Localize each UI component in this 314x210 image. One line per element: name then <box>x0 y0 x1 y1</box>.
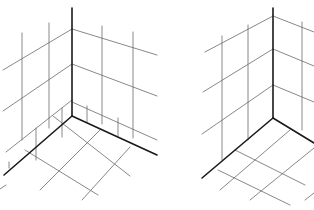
tile-grid-line <box>82 147 130 200</box>
sketch-canvas <box>0 0 314 210</box>
tile-grid-line <box>72 64 157 96</box>
tile-grid-line <box>273 85 314 102</box>
tile-grid-line <box>305 193 314 200</box>
tile-grid-line <box>235 150 305 185</box>
tile-grid-line <box>203 49 273 92</box>
tile-grid-line <box>40 130 100 190</box>
corner-edge-line <box>72 116 157 155</box>
tile-grid-line <box>205 16 273 52</box>
tile-grid-line <box>25 150 98 195</box>
tile-grid-line <box>273 49 314 66</box>
room-corners-illustration <box>0 0 314 210</box>
tile-grid-line <box>0 185 6 189</box>
corner-plain-figure <box>202 8 314 205</box>
tile-grid-line <box>72 29 157 55</box>
corner-with-baseboard-figure <box>0 8 157 200</box>
tile-grid-line <box>3 64 72 111</box>
tile-grid-line <box>218 170 290 205</box>
tile-grid-line <box>273 16 314 32</box>
tile-grid-line <box>3 29 72 70</box>
